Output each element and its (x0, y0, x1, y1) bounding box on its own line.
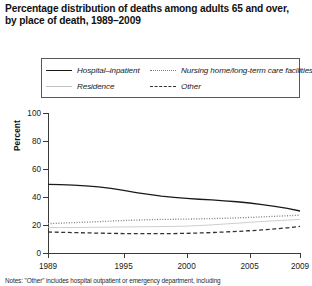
y-tick-label: 60 (32, 165, 41, 174)
legend-item-hospital-inpatient: Hospital–inpatient (46, 66, 150, 75)
title-line-1: Percentage distribution of deaths among … (5, 3, 289, 14)
legend-swatch-dotted-icon (150, 66, 176, 74)
legend-label: Residence (77, 82, 114, 91)
chart-footnote: Notes: "Other" includes hospital outpati… (5, 277, 307, 285)
x-axis-line (48, 253, 300, 254)
series-line (48, 219, 300, 227)
y-tick-label: 40 (32, 193, 41, 202)
plot-area: 020406080100 19891995200020052009 (48, 113, 300, 253)
x-tick (187, 253, 188, 258)
figure: Percentage distribution of deaths among … (0, 0, 312, 286)
legend-swatch-solid-icon (46, 66, 72, 74)
legend-item-residence: Residence (46, 82, 150, 91)
x-tick-label: 1995 (114, 262, 132, 271)
legend-label: Hospital–inpatient (77, 66, 140, 75)
x-tick-label: 2000 (177, 262, 195, 271)
legend-item-nursing-home: Nursing home/long-term care facilities (150, 66, 312, 75)
page-title: Percentage distribution of deaths among … (5, 3, 307, 28)
legend-swatch-dashed-icon (150, 82, 176, 90)
x-tick-label: 2005 (240, 262, 258, 271)
y-tick-label: 100 (27, 109, 41, 118)
legend-item-other: Other (150, 82, 312, 91)
series-line (48, 215, 300, 223)
legend-label: Other (181, 82, 201, 91)
x-tick (48, 253, 49, 258)
x-tick (300, 253, 301, 258)
x-tick-label: 1989 (39, 262, 57, 271)
y-tick-label: 80 (32, 137, 41, 146)
chart-legend: Hospital–inpatient Nursing home/long-ter… (41, 58, 300, 98)
series-lines (48, 113, 300, 253)
x-tick (250, 253, 251, 258)
series-line (48, 184, 300, 211)
y-axis-title: Percent (12, 120, 22, 151)
legend-swatch-thin-solid-icon (46, 82, 72, 90)
y-tick-label: 20 (32, 221, 41, 230)
y-tick-label: 0 (36, 249, 41, 258)
x-tick (124, 253, 125, 258)
title-line-2: by place of death, 1989–2009 (5, 15, 307, 27)
legend-label: Nursing home/long-term care facilities (181, 66, 312, 75)
x-tick-label: 2009 (291, 262, 309, 271)
